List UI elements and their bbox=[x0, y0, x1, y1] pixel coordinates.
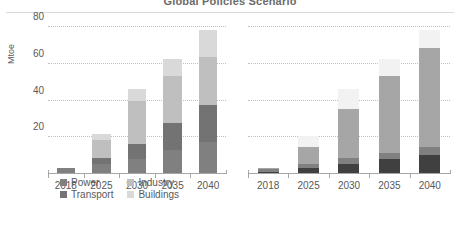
legend-swatch-icon bbox=[60, 179, 67, 186]
x-axis-tick bbox=[248, 174, 249, 178]
bar-segment-asia-pacific bbox=[298, 147, 319, 164]
legend-swatch-icon bbox=[60, 191, 67, 198]
x-axis-tick bbox=[190, 174, 191, 178]
bar-segment-north-america bbox=[338, 164, 359, 173]
legend-label: Industry bbox=[138, 177, 174, 188]
bar-segment-transport bbox=[199, 105, 218, 142]
bar-segment-north-america bbox=[379, 159, 400, 173]
bar-2035[interactable] bbox=[163, 59, 182, 173]
gridline bbox=[48, 26, 226, 27]
x-axis-line bbox=[48, 173, 226, 174]
gridline bbox=[248, 26, 450, 27]
bar-2030[interactable] bbox=[128, 89, 147, 173]
bar-segment-rest-of-world bbox=[338, 89, 359, 109]
legend-by-sector: PowerIndustryTransportBuildings bbox=[60, 177, 179, 200]
legend-label: Power bbox=[71, 177, 99, 188]
bar-segment-transport bbox=[163, 123, 182, 150]
sector-legend-item[interactable]: Buildings bbox=[127, 189, 179, 200]
x-axis-tick-label: 2035 bbox=[378, 180, 400, 191]
y-axis-tick: 80 bbox=[33, 11, 44, 22]
bar-segment-industry bbox=[92, 140, 111, 158]
x-axis-line bbox=[248, 173, 450, 174]
bar-segment-power bbox=[57, 168, 76, 173]
bar-segment-buildings bbox=[163, 59, 182, 76]
chart-panel-by-region: 20182025203020352040 North AmericaAsia P… bbox=[234, 14, 458, 202]
bar-segment-asia-pacific bbox=[379, 76, 400, 153]
x-axis-tick-label: 2040 bbox=[419, 180, 441, 191]
y-axis-tick: 40 bbox=[33, 84, 44, 95]
bar-segment-power bbox=[128, 159, 147, 173]
sector-legend-item[interactable]: Transport bbox=[60, 189, 113, 200]
bar-segment-rest-of-world bbox=[379, 59, 400, 76]
bar-segment-buildings bbox=[199, 30, 218, 57]
axis-cap bbox=[450, 170, 451, 174]
bar-2018[interactable] bbox=[57, 168, 76, 174]
plot-area-by-sector: 2040608020182025203020352040 bbox=[48, 18, 226, 174]
chart-panel-by-sector: Mtoe 2040608020182025203020352040 PowerI… bbox=[4, 14, 232, 202]
bar-2030[interactable] bbox=[338, 89, 359, 173]
x-axis-tick bbox=[48, 174, 49, 178]
bar-segment-industry bbox=[163, 76, 182, 124]
bar-segment-rest-of-world bbox=[298, 136, 319, 147]
x-axis-tick bbox=[329, 174, 330, 178]
bar-segment-asia-pacific bbox=[338, 109, 359, 159]
bar-segment-industry bbox=[199, 57, 218, 106]
bar-2025[interactable] bbox=[298, 136, 319, 173]
bar-segment-buildings bbox=[128, 89, 147, 102]
sector-legend-item[interactable]: Industry bbox=[127, 177, 179, 188]
bar-segment-power bbox=[163, 150, 182, 173]
legend-label: Buildings bbox=[138, 189, 179, 200]
bar-segment-rest-of-world bbox=[419, 30, 440, 48]
bar-segment-power bbox=[199, 142, 218, 173]
bar-segment-north-america bbox=[258, 172, 279, 173]
x-axis-tick-label: 2025 bbox=[297, 180, 319, 191]
y-axis-tick: 60 bbox=[33, 47, 44, 58]
x-axis-tick-label: 2018 bbox=[257, 180, 279, 191]
axis-cap bbox=[226, 170, 227, 174]
legend-label: Transport bbox=[71, 189, 113, 200]
bar-segment-north-america bbox=[419, 155, 440, 173]
legend-swatch-icon bbox=[127, 179, 134, 186]
sector-legend-item[interactable]: Power bbox=[60, 177, 113, 188]
x-axis-tick-label: 2040 bbox=[197, 180, 219, 191]
bar-2040[interactable] bbox=[199, 30, 218, 173]
bar-segment-asia-pacific bbox=[419, 48, 440, 147]
bar-segment-europe bbox=[419, 147, 440, 154]
bar-segment-transport bbox=[128, 144, 147, 160]
bar-2025[interactable] bbox=[92, 134, 111, 173]
x-axis-tick bbox=[410, 174, 411, 178]
bar-2035[interactable] bbox=[379, 59, 400, 173]
y-axis-tick: 20 bbox=[33, 121, 44, 132]
y-axis-label: Mtoe bbox=[6, 44, 16, 64]
bar-2018[interactable] bbox=[258, 168, 279, 174]
x-axis-tick bbox=[369, 174, 370, 178]
legend-swatch-icon bbox=[127, 191, 134, 198]
bar-2040[interactable] bbox=[419, 30, 440, 173]
x-axis-tick bbox=[288, 174, 289, 178]
bar-segment-power bbox=[92, 164, 111, 173]
x-axis-tick-label: 2030 bbox=[338, 180, 360, 191]
bar-segment-north-america bbox=[298, 168, 319, 174]
bar-segment-industry bbox=[128, 101, 147, 143]
header-divider bbox=[6, 12, 454, 13]
chart-title: Global Policies Scenario bbox=[0, 0, 460, 7]
plot-area-by-region: 20182025203020352040 bbox=[248, 18, 450, 174]
